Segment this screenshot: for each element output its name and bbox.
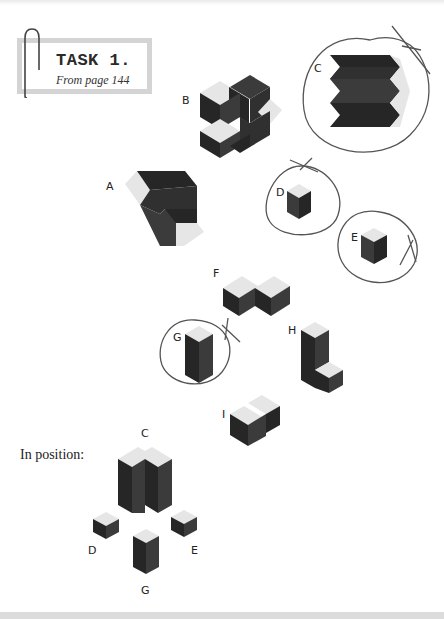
piece-i (230, 395, 280, 446)
piece-d (287, 184, 311, 219)
label-piece-i: I (222, 408, 225, 421)
page-bottom-edge (0, 612, 444, 619)
label-piece-e: E (351, 231, 358, 244)
label-piece-d: D (276, 186, 284, 199)
label-piece-h: H (288, 324, 296, 337)
assembled-g (133, 529, 159, 574)
piece-g (185, 326, 213, 383)
label-pos-e: E (191, 544, 198, 557)
assembled-c (118, 447, 172, 513)
label-piece-c: C (314, 62, 322, 75)
piece-a (125, 171, 204, 246)
label-piece-b: B (182, 94, 190, 107)
piece-e (361, 228, 387, 264)
label-pos-c: C (141, 427, 149, 440)
assembled-d (93, 512, 119, 539)
piece-c (330, 55, 410, 127)
label-pos-d: D (88, 544, 96, 557)
piece-b (200, 75, 282, 158)
assembled-e (171, 510, 197, 537)
label-pos-g: G (141, 584, 150, 597)
label-piece-f: F (213, 267, 219, 280)
puzzle-pieces-illustration: .t{fill:#e6e6e6} .l{fill:#3b3b3b} .r{fil… (0, 0, 444, 619)
in-position-label: In position: (20, 447, 84, 463)
piece-f (223, 276, 290, 316)
label-piece-a: A (106, 180, 114, 193)
label-piece-g: G (173, 331, 182, 344)
piece-h (301, 322, 343, 393)
puzzle-page: TASK 1. From page 144 .t{fill:#e6e6e6} .… (0, 0, 444, 619)
